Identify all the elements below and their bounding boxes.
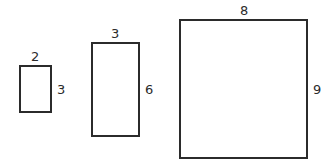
rectangle-medium-width-label: 3 xyxy=(111,27,119,40)
rectangle-medium xyxy=(91,42,140,137)
rectangle-small xyxy=(19,65,52,113)
rectangle-small-height-label: 3 xyxy=(57,83,65,96)
rectangle-large xyxy=(179,19,308,159)
rectangle-medium-height-label: 6 xyxy=(145,83,153,96)
rectangle-large-width-label: 8 xyxy=(240,4,248,17)
rectangle-large-height-label: 9 xyxy=(313,83,321,96)
rectangle-small-width-label: 2 xyxy=(31,50,39,63)
